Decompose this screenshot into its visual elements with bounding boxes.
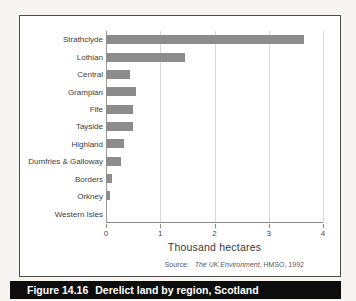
category-label: Borders <box>20 171 103 188</box>
chart-bar <box>106 122 133 131</box>
x-axis-title: Thousand hectares <box>106 241 323 253</box>
chart-bar <box>106 35 304 44</box>
x-tick-label: 2 <box>212 229 216 238</box>
plot-area <box>106 31 323 223</box>
chart-bar-row <box>106 153 323 170</box>
category-label: Western Isles <box>20 206 103 223</box>
chart-bar <box>106 191 110 200</box>
source-suffix: , HMSO, 1992 <box>260 261 304 268</box>
category-label: Grampian <box>20 83 103 100</box>
chart-bar-row <box>106 31 323 48</box>
chart-bar-row <box>106 100 323 117</box>
chart-bar-row <box>106 187 323 204</box>
x-tick-label: 0 <box>104 229 108 238</box>
chart-bar <box>106 139 124 148</box>
category-label: Tayside <box>20 118 103 135</box>
gridline <box>323 31 324 222</box>
chart-bar-row <box>106 135 323 152</box>
chart-bar <box>106 105 133 114</box>
figure-number: Figure 14.16 <box>27 284 88 296</box>
x-tick-label: 3 <box>267 229 271 238</box>
figure-container: StrathclydeLothianCentralGrampianFifeTay… <box>0 0 356 301</box>
source-prefix: Source: <box>165 261 189 268</box>
chart-bar-row <box>106 66 323 83</box>
source-book-title: The UK Environment <box>195 261 260 268</box>
bar-rows <box>106 31 323 222</box>
chart-bar <box>106 87 136 96</box>
x-tick-label: 1 <box>158 229 162 238</box>
x-tick-label: 4 <box>321 229 325 238</box>
chart-bar-row <box>106 205 323 222</box>
category-label: Lothian <box>20 48 103 65</box>
x-tick-mark <box>160 224 161 228</box>
chart-bar <box>106 174 112 183</box>
category-label: Orkney <box>20 188 103 205</box>
category-label: Strathclyde <box>20 31 103 48</box>
chart-bar-row <box>106 83 323 100</box>
x-axis: 01234 <box>106 224 323 240</box>
figure-title: Derelict land by region, Scotland <box>95 284 258 296</box>
chart-bar-row <box>106 118 323 135</box>
figure-caption-bar: Figure 14.16 Derelict land by region, Sc… <box>10 281 341 299</box>
category-label: Fife <box>20 101 103 118</box>
x-tick-mark <box>323 224 324 228</box>
chart-bar <box>106 70 130 79</box>
chart-frame: StrathclydeLothianCentralGrampianFifeTay… <box>19 15 341 277</box>
x-tick-mark <box>269 224 270 228</box>
category-labels: StrathclydeLothianCentralGrampianFifeTay… <box>20 31 103 223</box>
category-label: Central <box>20 66 103 83</box>
chart-bar-row <box>106 48 323 65</box>
chart-bar-row <box>106 170 323 187</box>
chart-bar <box>106 157 121 166</box>
source-note: Source: The UK Environment, HMSO, 1992 <box>165 261 304 268</box>
x-tick-mark <box>215 224 216 228</box>
category-label: Dumfries & Galloway <box>20 153 103 170</box>
chart-bar <box>106 53 185 62</box>
category-label: Highland <box>20 136 103 153</box>
x-tick-mark <box>106 224 107 228</box>
